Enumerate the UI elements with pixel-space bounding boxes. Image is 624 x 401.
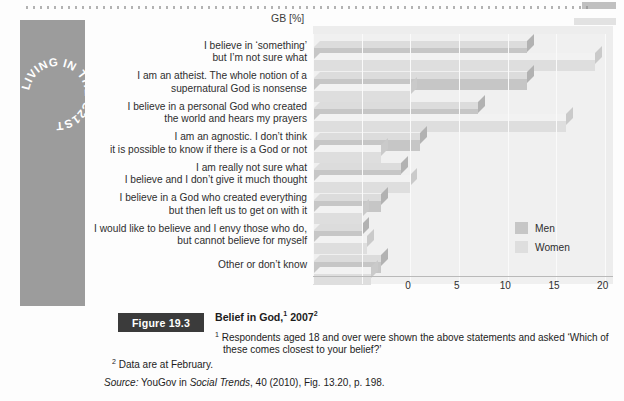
top-right-marker	[582, 2, 616, 9]
bar-top-face	[313, 206, 369, 213]
figure-caption: Belief in God,1 20072 1 Respondents aged…	[215, 310, 615, 357]
bar-front-face	[313, 213, 362, 224]
bar-side-face	[362, 217, 369, 235]
source-publication: Social Trends	[190, 377, 250, 388]
bar-top-face	[313, 41, 534, 48]
top-dotted-rule	[26, 6, 588, 9]
bar-top-face	[313, 236, 374, 243]
gridline	[508, 34, 509, 284]
bar-top-face	[313, 84, 417, 91]
bar-women	[313, 60, 595, 71]
bar-side-face	[367, 229, 374, 247]
chart-legend: Men Women	[515, 222, 570, 260]
figure-source: Source: YouGov in Social Trends, 40 (201…	[104, 377, 385, 388]
figure-note-1-text: Respondents aged 18 and over were shown …	[222, 332, 609, 356]
bar-front-face	[313, 60, 595, 71]
source-label: Source:	[104, 377, 138, 388]
bar-side-face	[401, 156, 408, 174]
side-banner: LIVING IN THE C21ST	[20, 20, 85, 306]
legend-item-women: Women	[515, 241, 570, 253]
source-pre: YouGov in	[138, 377, 189, 388]
bar-top-face	[313, 53, 602, 60]
category-label: Other or don’t know	[93, 259, 307, 271]
bar-side-face	[595, 46, 602, 64]
bar-women	[313, 213, 362, 224]
figure-title: Belief in God,1 20072	[215, 310, 615, 323]
bar-front-face	[313, 152, 381, 163]
bar-top-face	[313, 72, 534, 79]
category-label: I am an atheist. The whole notion of asu…	[93, 70, 307, 95]
figure-title-year: 2007	[290, 311, 314, 323]
bar-side-face	[566, 107, 573, 125]
bar-front-face	[313, 243, 367, 254]
bar-side-face	[381, 248, 388, 266]
legend-swatch-women	[515, 241, 528, 253]
gridline	[605, 34, 606, 284]
category-label: I would like to believe and I envy those…	[93, 223, 307, 248]
x-axis-line	[313, 276, 613, 277]
gridline	[410, 34, 411, 284]
figure-note-1: 1 Respondents aged 18 and over were show…	[215, 329, 615, 358]
bar-top-face	[313, 224, 369, 231]
legend-label-men: Men	[535, 223, 555, 234]
category-label: I believe in ‘something’but I’m not sure…	[93, 40, 307, 65]
category-label: I am really not sure whatI believe and I…	[93, 162, 307, 187]
x-axis-tick: 0	[405, 280, 411, 291]
gridline	[362, 34, 363, 284]
figure-note-2-text: Data are at February.	[119, 359, 213, 370]
legend-label-women: Women	[535, 242, 570, 253]
bar-front-face	[313, 121, 566, 132]
x-axis-tick: 10	[500, 280, 511, 291]
category-label: I believe in a God who created everythin…	[93, 192, 307, 217]
bar-side-face	[478, 95, 485, 113]
bar-top-face	[313, 114, 573, 121]
bar-top-face	[313, 267, 378, 274]
legend-item-men: Men	[515, 222, 570, 234]
gridline	[459, 34, 460, 284]
figure-page: LIVING IN THE C21ST GB [%] I believe in …	[0, 0, 624, 401]
bar-women	[313, 152, 381, 163]
svg-text:LIVING IN THE C21ST: LIVING IN THE C21ST	[20, 56, 85, 132]
banner-circular-text: LIVING IN THE C21ST	[20, 20, 85, 306]
figure-title-sup-1: 1	[283, 310, 287, 317]
figure-title-text: Belief in God,	[215, 311, 283, 323]
source-post: , 40 (2010), Fig. 13.20, p. 198.	[250, 377, 385, 388]
bar-top-face	[313, 175, 417, 182]
figure-note-2: 2 Data are at February.	[112, 358, 213, 370]
bar-women	[313, 243, 367, 254]
bar-top-face	[313, 145, 388, 152]
category-label: I believe in a personal God who createdt…	[93, 101, 307, 126]
legend-swatch-men	[515, 222, 528, 234]
axis-unit-label: GB [%]	[271, 12, 304, 24]
bar-top-face	[313, 194, 388, 201]
bar-side-face	[527, 34, 534, 52]
bar-side-face	[410, 168, 417, 186]
gridline	[313, 34, 314, 284]
chart-container: GB [%] I believe in ‘something’but I’m n…	[95, 10, 613, 306]
bar-women	[313, 121, 566, 132]
category-label-column: I believe in ‘something’but I’m not sure…	[95, 26, 313, 284]
figure-note-2-marker: 2	[112, 358, 116, 365]
x-axis-tick: 20	[597, 280, 608, 291]
figure-number-tag: Figure 19.3	[118, 313, 204, 332]
x-axis-tick: 5	[454, 280, 460, 291]
x-axis-tick: 15	[548, 280, 559, 291]
bar-top-face	[313, 163, 408, 170]
figure-title-sup-2: 2	[314, 310, 318, 317]
figure-note-1-marker: 1	[215, 331, 219, 338]
category-label: I am an agnostic. I don’t thinkit is pos…	[93, 131, 307, 156]
